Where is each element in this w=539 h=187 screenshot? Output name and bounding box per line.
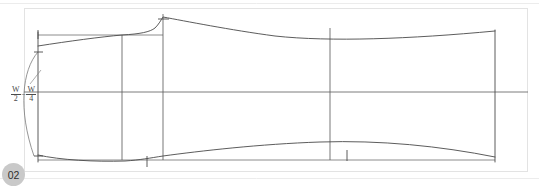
dimension-fraction-left: W 2	[11, 86, 21, 104]
fraction-denominator-right: 4	[26, 95, 36, 103]
dimension-label: W 2 − W 4	[11, 86, 45, 104]
technical-drawing	[0, 0, 539, 187]
dimension-leader	[30, 70, 41, 84]
page-frame	[25, 9, 528, 172]
lower-outline-curve	[38, 142, 495, 162]
upper-outline-curve	[38, 17, 495, 46]
fraction-denominator-left: 2	[11, 95, 21, 103]
drawing-canvas: W 2 − W 4 02	[0, 0, 539, 187]
dimension-fraction-right: W 4	[26, 86, 36, 104]
dimension-arc	[24, 52, 38, 156]
plate-number-badge: 02	[2, 163, 25, 186]
